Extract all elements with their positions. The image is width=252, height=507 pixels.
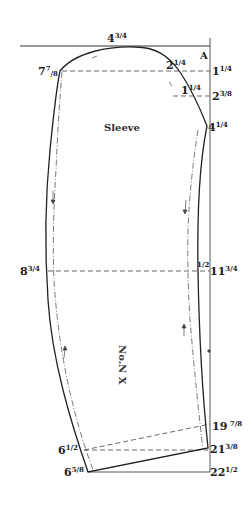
arrow-icon xyxy=(92,56,97,58)
notch-dot xyxy=(208,350,211,353)
piece-label-sleeve: Sleeve xyxy=(104,122,140,133)
label-elbow-half: 1/2 xyxy=(197,261,209,268)
label-right-6: 221/2 xyxy=(210,466,238,478)
corner-label-a: A xyxy=(200,51,208,61)
label-top-left: 77/8 xyxy=(38,65,58,77)
label-bottom-left-1: 61/2 xyxy=(58,444,78,456)
label-elbow-right: 113/4 xyxy=(210,265,238,277)
label-right-4: 19 7/8 xyxy=(212,420,242,432)
label-bottom-left-2: 65/8 xyxy=(64,466,84,478)
label-right-3: 41/4 xyxy=(208,121,228,133)
label-curve-1: 21/4 xyxy=(166,59,186,71)
label-right-1: 11/4 xyxy=(212,65,232,77)
dashed-line-19-7-8 xyxy=(84,424,210,450)
pattern-number-label: No.N X xyxy=(117,345,128,385)
label-right-2: 23/8 xyxy=(212,90,232,102)
arrow-icon xyxy=(169,82,172,86)
label-curve-2: 11/4 xyxy=(181,84,201,96)
label-right-5: 213/8 xyxy=(210,443,238,455)
label-top-crown: 43/4 xyxy=(107,32,127,44)
label-elbow-left: 83/4 xyxy=(20,265,40,277)
sleeve-outline xyxy=(46,47,208,472)
